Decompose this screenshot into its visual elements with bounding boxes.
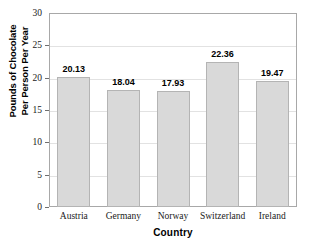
bars-layer [49, 13, 297, 207]
bar-switzerland [206, 62, 239, 207]
bar-value-ireland: 19.47 [247, 68, 297, 78]
y-tick-label-10: 10 [2, 137, 42, 147]
bar-value-austria: 20.13 [49, 64, 99, 74]
bar-germany [107, 90, 140, 207]
bar-ireland [256, 81, 289, 207]
bar-austria [57, 77, 90, 207]
bar-chart: Pounds of Chocolate Per Person Per Year … [0, 0, 313, 249]
y-tick-mark-0 [45, 207, 49, 208]
y-tick-label-20: 20 [2, 73, 42, 83]
y-tick-label-5: 5 [2, 170, 42, 180]
bar-norway [157, 91, 190, 207]
bar-value-switzerland: 22.36 [198, 49, 248, 59]
bar-value-norway: 17.93 [148, 78, 198, 88]
bar-value-germany: 18.04 [98, 77, 148, 87]
x-tick-label-ireland: Ireland [237, 211, 307, 222]
x-axis-title: Country [49, 227, 297, 238]
y-tick-label-30: 30 [2, 8, 42, 18]
y-tick-label-0: 0 [2, 202, 42, 212]
y-tick-label-15: 15 [2, 105, 42, 115]
y-tick-label-25: 25 [2, 40, 42, 50]
